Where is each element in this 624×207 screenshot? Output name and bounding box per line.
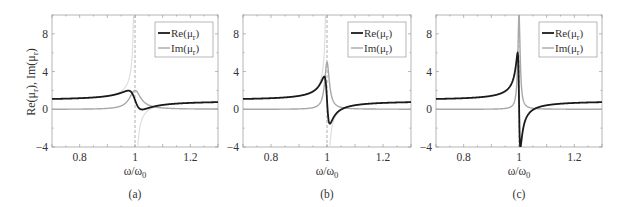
lossless-curve [327,102,411,207]
x-axis-label: ω/ω0 [316,165,339,180]
y-tick-label: 4 [233,66,239,78]
y-tick-label: 8 [233,28,239,40]
panel-c: 0.811.2−4048ω/ω0(c)Re(μr)Im(μr) [420,15,602,201]
x-tick-label: 0.8 [264,151,279,163]
lossless-curve [135,102,218,207]
x-tick-label: 1 [132,151,138,163]
panel-a: 0.811.2−4048ω/ω0(a)Re(μr)Im(μr) [36,0,218,207]
x-axis-label: ω/ω0 [508,165,531,180]
y-tick-label: 8 [42,28,48,40]
y-tick-label: 0 [233,103,239,115]
y-tick-label: −4 [420,141,432,153]
x-axis-label: ω/ω0 [124,165,147,180]
y-tick-label: 8 [426,28,432,40]
x-tick-label: 1 [324,151,330,163]
legend: Re(μr)Im(μr) [539,22,597,57]
x-tick-label: 0.8 [456,151,471,163]
y-tick-label: −4 [227,141,239,153]
legend: Re(μr)Im(μr) [348,22,406,57]
x-tick-label: 1.2 [567,151,582,163]
panel-caption: (b) [320,188,334,201]
panel-b: 0.811.2−4048ω/ω0(b)Re(μr)Im(μr) [227,0,411,207]
y-tick-label: 4 [426,66,432,78]
x-tick-label: 1.2 [376,151,391,163]
panel-caption: (c) [513,188,526,201]
x-tick-label: 1 [516,151,522,163]
y-tick-label: 0 [42,103,48,115]
y-tick-label: −4 [36,141,48,153]
chart-canvas: Re(μr), Im(μr) 0.811.2−4048ω/ω0(a)Re(μr)… [0,0,624,207]
panel-caption: (a) [129,188,142,201]
y-axis-label: Re(μr), Im(μr) [24,48,40,116]
y-tick-label: 4 [42,66,48,78]
panels-group: 0.811.2−4048ω/ω0(a)Re(μr)Im(μr)0.811.2−4… [36,0,602,207]
x-tick-label: 1.2 [183,151,198,163]
re-mu-curve [436,53,602,147]
x-tick-label: 0.8 [72,151,87,163]
figure: Re(μr), Im(μr) 0.811.2−4048ω/ω0(a)Re(μr)… [0,0,624,207]
legend: Re(μr)Im(μr) [155,22,213,57]
y-tick-label: 0 [426,103,432,115]
